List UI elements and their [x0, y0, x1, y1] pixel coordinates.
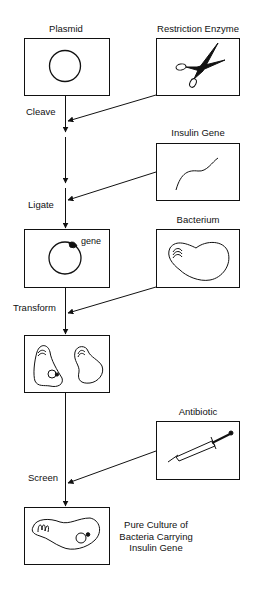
bacterium-label: Bacterium	[177, 214, 220, 225]
gene-label: gene	[81, 236, 101, 246]
step-screen: Screen	[28, 472, 58, 483]
two-bacteria-icon	[34, 346, 103, 387]
bacterium-with-plasmid-icon	[32, 518, 99, 549]
scissors-icon	[176, 43, 225, 88]
syringe-icon	[168, 431, 233, 462]
insulin-gene-box	[157, 144, 240, 201]
flow-diagram	[0, 0, 255, 594]
plasmid-with-gene-icon	[49, 242, 81, 274]
step-transform: Transform	[13, 302, 56, 313]
circle-plasmid-icon	[50, 51, 81, 82]
step-cleave: Cleave	[26, 106, 56, 117]
insulin-gene-label: Insulin Gene	[171, 127, 224, 138]
antibiotic-label: Antibiotic	[179, 406, 218, 417]
bacterium-box	[157, 230, 240, 288]
plasmid-label: Plasmid	[49, 23, 83, 34]
arrow-gene-input	[68, 172, 156, 200]
result-line-2: Bacteria Carrying	[119, 531, 192, 543]
result-label: Pure Culture of Bacteria Carrying Insuli…	[119, 519, 192, 554]
arrow-antibiotic-input	[68, 451, 156, 483]
arrow-enzyme-input	[68, 95, 156, 121]
arrow-bacterium-input	[68, 287, 156, 313]
result-line-3: Insulin Gene	[119, 542, 192, 554]
result-line-1: Pure Culture of	[119, 519, 192, 531]
restriction-enzyme-label: Restriction Enzyme	[157, 23, 239, 34]
antibiotic-box	[157, 422, 240, 480]
result-box	[25, 508, 110, 565]
plasmid-box	[25, 39, 110, 96]
step-ligate: Ligate	[28, 199, 54, 210]
bacterium-icon	[169, 242, 229, 280]
dna-strand-icon	[176, 158, 218, 190]
